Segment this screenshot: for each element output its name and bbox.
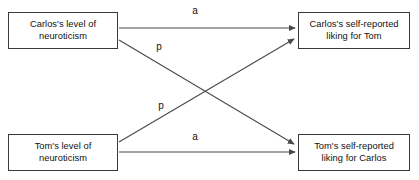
path-label-actor-tom: a [188, 132, 202, 142]
arrow-partner-tom-to-carlos [119, 39, 294, 142]
node-tom-liking-label: Tom's self-reported liking for Carlos [314, 141, 394, 164]
node-carlos-liking-label: Carlos's self-reported liking for Tom [309, 19, 398, 42]
path-label-partner-tom-to-carlos: p [154, 101, 168, 111]
node-tom-neuroticism: Tom's level of neuroticism [8, 134, 118, 171]
node-carlos-neuroticism-label: Carlos's level of neuroticism [30, 19, 96, 42]
node-tom-liking: Tom's self-reported liking for Carlos [298, 134, 410, 171]
node-tom-neuroticism-label: Tom's level of neuroticism [35, 141, 92, 164]
path-label-actor-carlos: a [188, 6, 202, 16]
node-carlos-neuroticism: Carlos's level of neuroticism [8, 12, 118, 49]
apim-path-diagram: Carlos's level of neuroticism Carlos's s… [0, 0, 419, 180]
node-carlos-liking: Carlos's self-reported liking for Tom [298, 12, 410, 49]
arrow-partner-carlos-to-tom [119, 40, 294, 144]
path-label-partner-carlos-to-tom: p [152, 42, 166, 52]
